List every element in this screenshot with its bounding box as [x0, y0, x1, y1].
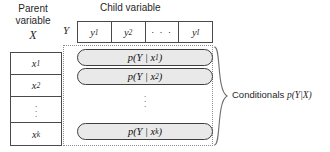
parent-variable-heading: Parent variable [4, 3, 62, 26]
parent-heading-line2: variable [4, 15, 62, 27]
child-variable-row: y1 y2 · · · yI [77, 21, 213, 43]
child-cell-y2: y2 [112, 22, 146, 42]
conditional-oval-xk: p(Y | xk) [77, 123, 213, 140]
parent-cell-x2: x2 [11, 75, 61, 97]
child-variable-symbol: Y [63, 24, 69, 36]
child-cell-y1: y1 [78, 22, 112, 42]
conditionals-annotation-text: Conditionals [232, 89, 284, 100]
parent-heading-line1: Parent [4, 3, 62, 15]
child-cell-yI: yI [179, 22, 212, 42]
conditional-oval-x2: p(Y | x2) [77, 68, 213, 85]
parent-cell-xk: xk [11, 123, 61, 145]
conditionals-annotation-math: p(Y|X) [287, 90, 312, 100]
conditional-ellipsis: ... [77, 92, 213, 107]
parent-cell-x1: x1 [11, 53, 61, 75]
parent-variable-column: x1 x2 ... xk [10, 52, 62, 146]
conditional-probability-table-diagram: Parent variable X Child variable Y y1 y2… [0, 0, 330, 152]
parent-cell-ellipsis: ... [11, 97, 61, 123]
child-cell-ellipsis: · · · [146, 22, 180, 42]
child-variable-heading: Child variable [100, 2, 220, 13]
parent-variable-symbol: X [4, 28, 62, 43]
conditionals-annotation: Conditionals p(Y|X) [232, 89, 330, 100]
conditional-oval-x1: p(Y | x1) [77, 49, 213, 66]
grouping-brace [213, 46, 229, 146]
